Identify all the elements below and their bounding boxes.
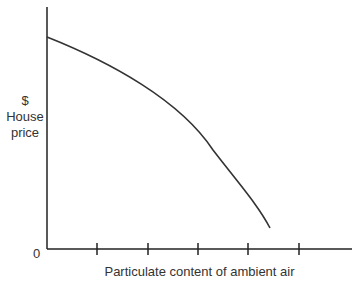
x-axis-label: Particulate content of ambient air [47, 264, 352, 279]
y-axis-label-currency: $ [0, 93, 50, 109]
y-axis-label-price: price [0, 125, 50, 141]
price-curve [47, 37, 270, 228]
y-axis-label-house: House [0, 109, 50, 125]
chart-canvas [0, 0, 363, 287]
origin-label: 0 [33, 246, 40, 261]
